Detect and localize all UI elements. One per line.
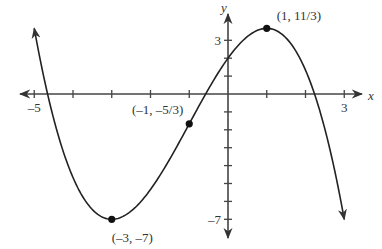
x-axis-label: x [367,88,374,103]
point-label: (–3, –7) [112,230,153,245]
axis-ticks: –533–7 [27,33,348,227]
cubic-function-graph: –533–7 (1, 11/3)(–1, –5/3)(–3, –7) x y [0,0,382,249]
y-tick-label: 3 [215,33,222,48]
y-tick-label: –7 [207,212,222,227]
point-marker [263,25,270,32]
point-label: (1, 11/3) [277,8,321,23]
point-label: (–1, –5/3) [132,102,183,117]
x-tick-label: –5 [27,100,41,115]
point-marker [108,216,115,223]
point-marker [186,120,193,127]
y-axis-label: y [219,0,227,15]
x-tick-label: 3 [341,100,348,115]
